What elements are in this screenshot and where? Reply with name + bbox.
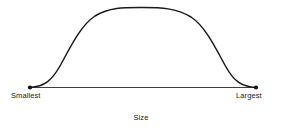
- left-endpoint-dot: [28, 85, 32, 89]
- bell-curve-chart: Smallest Largest Size: [0, 0, 282, 131]
- chart-plot-area: [0, 0, 282, 131]
- distribution-curve: [30, 7, 256, 87]
- x-tick-label-largest: Largest: [236, 92, 262, 100]
- right-endpoint-dot: [254, 85, 258, 89]
- x-tick-label-smallest: Smallest: [11, 92, 41, 100]
- x-axis-title: Size: [0, 114, 282, 122]
